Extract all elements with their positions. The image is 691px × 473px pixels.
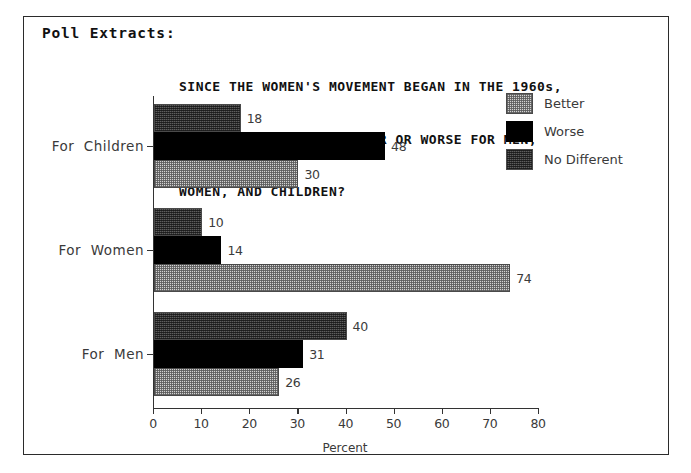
y-tick — [147, 146, 153, 147]
bar-value-label: 14 — [227, 243, 242, 258]
legend-label-no-different: No Different — [544, 152, 623, 167]
poll-extract-panel: Poll Extracts: SINCE THE WOMEN'S MOVEMEN… — [23, 16, 669, 455]
x-tick — [442, 408, 443, 414]
panel-header: Poll Extracts: — [42, 25, 175, 41]
category-label: For Women — [58, 242, 144, 258]
bar — [154, 208, 202, 236]
chart-title-line-1: SINCE THE WOMEN'S MOVEMENT BEGAN IN THE … — [179, 78, 562, 96]
category-label: For Children — [52, 138, 144, 154]
bar — [154, 236, 221, 264]
x-tick — [490, 408, 491, 414]
bar-value-label: 30 — [304, 167, 319, 182]
x-tick-label: 0 — [149, 416, 157, 431]
x-tick-label: 20 — [242, 416, 257, 431]
x-tick-label: 30 — [290, 416, 305, 431]
y-tick — [147, 354, 153, 355]
bar — [154, 104, 241, 132]
bar — [154, 160, 298, 188]
x-tick — [201, 408, 202, 414]
y-tick — [147, 250, 153, 251]
x-tick-label: 70 — [482, 416, 497, 431]
bar — [154, 264, 510, 292]
x-tick-label: 80 — [530, 416, 545, 431]
bar-value-label: 74 — [516, 271, 531, 286]
bar-value-label: 40 — [353, 319, 368, 334]
plot-area: 01020304050607080 For ChildrenFor WomenF… — [153, 96, 543, 412]
bar — [154, 132, 385, 160]
x-tick-label: 40 — [338, 416, 353, 431]
bar — [154, 312, 347, 340]
bar-value-label: 48 — [391, 139, 406, 154]
bar — [154, 368, 279, 396]
bar-value-label: 26 — [285, 375, 300, 390]
x-tick-label: 10 — [194, 416, 209, 431]
x-tick — [249, 408, 250, 414]
x-tick — [538, 408, 539, 414]
x-axis-label: Percent — [322, 441, 367, 455]
legend-label-better: Better — [544, 96, 584, 111]
x-tick — [297, 408, 298, 414]
category-label: For Men — [82, 346, 144, 362]
bar-value-label: 31 — [309, 347, 324, 362]
x-tick-label: 60 — [434, 416, 449, 431]
legend-label-worse: Worse — [544, 124, 584, 139]
x-tick — [394, 408, 395, 414]
bar-value-label: 18 — [247, 111, 262, 126]
x-tick — [346, 408, 347, 414]
bar-value-label: 10 — [208, 215, 223, 230]
x-tick — [153, 408, 154, 414]
x-tick-label: 50 — [386, 416, 401, 431]
bar — [154, 340, 303, 368]
